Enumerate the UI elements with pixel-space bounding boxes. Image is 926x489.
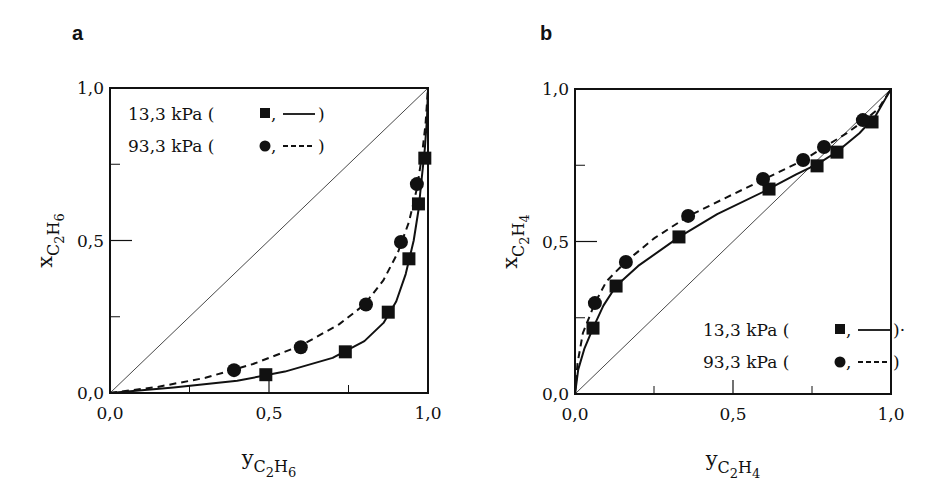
y-axis-label-sub: C [44,244,63,256]
panel-letter: a [72,22,84,44]
legend-marker-circle [260,141,271,152]
y-axis-label-sub: C [509,245,528,257]
legend-comma: , [271,104,276,124]
x-tick-label: 0,5 [719,404,746,424]
x-axis-label-main: y [241,446,254,470]
y-axis-label-main: x [33,256,57,268]
x-tick-label: 1,0 [414,403,441,423]
y-axis-label: xC2H6 [33,213,67,268]
y-axis-label-sub-num: 6 [52,213,67,221]
legend-close-paren: ) [318,104,325,124]
data-point-circle [359,298,373,312]
data-point-square [811,159,824,172]
data-point-square [412,197,425,210]
y-axis-label-sub-num: 4 [517,214,532,222]
x-axis-label: yC2H6 [241,446,297,480]
panel-letter: b [540,22,552,44]
data-point-circle [817,140,831,154]
y-axis-label-sub: H [509,222,528,236]
x-axis-label-sub-num: 6 [288,465,296,480]
legend-comma: , [271,136,276,156]
legend-label: 13,3 kPa ( [703,320,789,340]
x-axis-label-main: y [705,447,718,471]
legend-close-paren: )· [893,320,905,340]
legend-comma: , [846,352,851,372]
data-point-square [672,230,685,243]
y-axis-label-sub-num: 2 [517,236,532,244]
data-point-square [339,345,352,358]
data-point-circle [681,209,695,223]
x-tick-label: 0,5 [255,403,282,423]
x-axis-label-sub: C [254,457,266,476]
data-point-circle [394,235,408,249]
figure: a0,00,51,00,00,51,0yC2H6xC2H613,3 kPa (,… [0,0,926,489]
data-point-circle [796,153,810,167]
y-axis-label-sub: H [44,221,63,235]
data-point-square [830,146,843,159]
data-point-circle [619,255,633,269]
y-tick-label: 0,0 [542,384,569,404]
x-tick-label: 0,0 [561,404,588,424]
data-point-circle [856,113,870,127]
data-point-square [382,306,395,319]
legend-label: 93,3 kPa ( [703,352,789,372]
legend-close-paren: ) [893,352,900,372]
data-point-square [259,368,272,381]
x-tick-label: 1,0 [877,404,904,424]
legend-marker-square [260,108,270,118]
data-point-square [418,152,431,165]
y-axis-label-main: x [498,257,522,269]
legend: 13,3 kPa (,)·93,3 kPa (,) [703,320,905,372]
x-tick-label: 0,0 [96,403,123,423]
panel-a: a0,00,51,00,00,51,0yC2H6xC2H613,3 kPa (,… [33,22,442,480]
data-point-circle [410,177,424,191]
legend-label: 13,3 kPa ( [128,104,214,124]
y-tick-label: 0,5 [77,231,104,251]
data-point-square [402,252,415,265]
y-tick-label: 0,5 [542,232,569,252]
diagonal-line [110,88,428,393]
data-point-circle [294,340,308,354]
data-point-square [587,322,600,335]
legend-marker-circle [835,357,846,368]
legend-marker-square [835,324,845,334]
legend-comma: , [846,320,851,340]
y-axis-label-sub-num: 2 [52,235,67,243]
data-point-circle [588,296,602,310]
data-point-circle [227,363,241,377]
x-axis-label-sub: H [274,457,288,476]
y-tick-label: 0,0 [77,383,104,403]
x-axis-label-sub-num: 2 [730,466,738,481]
x-axis-label-sub-num: 4 [752,466,760,481]
x-axis-label-sub: H [738,458,752,477]
x-axis-label-sub: C [718,458,730,477]
legend-close-paren: ) [318,136,325,156]
x-axis-label: yC2H4 [705,447,761,481]
legend-label: 93,3 kPa ( [128,136,214,156]
y-axis-label: xC2H4 [498,214,532,269]
data-point-square [610,280,623,293]
data-point-circle [756,172,770,186]
legend: 13,3 kPa (,)93,3 kPa (,) [128,104,325,156]
y-tick-label: 1,0 [542,79,569,99]
panel-b: b0,00,51,00,00,51,0yC2H4xC2H413,3 kPa (,… [498,22,905,481]
y-tick-label: 1,0 [77,78,104,98]
x-axis-label-sub-num: 2 [266,465,274,480]
